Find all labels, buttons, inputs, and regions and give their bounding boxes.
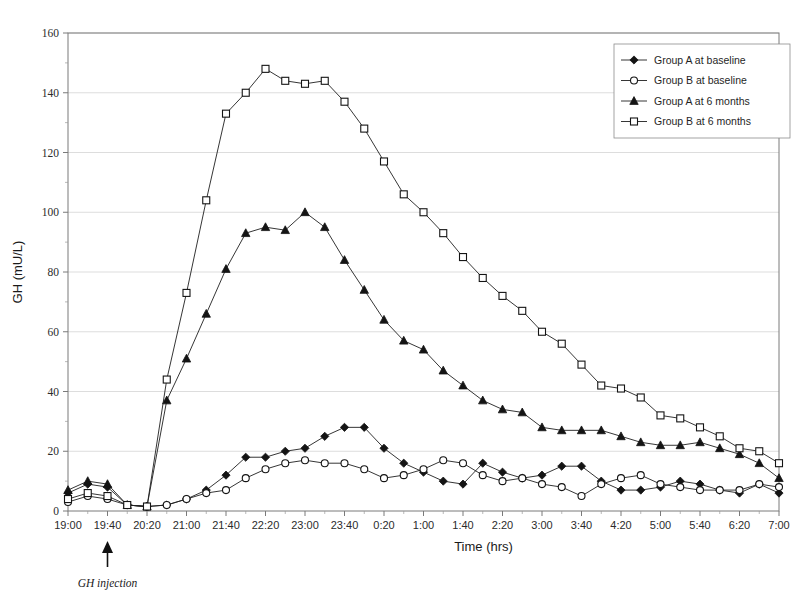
data-point xyxy=(223,487,230,494)
data-point xyxy=(282,77,289,84)
x-tick-label-7: 23:40 xyxy=(331,519,359,531)
x-tick-label-5: 22:20 xyxy=(252,519,280,531)
data-point xyxy=(499,292,506,299)
data-point xyxy=(222,265,230,273)
x-tick-label-8: 0:20 xyxy=(373,519,394,531)
data-point xyxy=(381,158,388,165)
x-tick-label-16: 5:40 xyxy=(689,519,710,531)
data-point xyxy=(736,445,743,452)
x-tick-label-4: 21:40 xyxy=(212,519,240,531)
x-tick-label-11: 2:20 xyxy=(492,519,513,531)
data-point xyxy=(755,459,763,467)
legend-marker-open-square xyxy=(631,118,638,125)
data-point xyxy=(65,496,72,503)
y-tick-label-60: 60 xyxy=(48,326,60,338)
data-point xyxy=(696,438,704,446)
data-point xyxy=(361,466,368,473)
data-point xyxy=(498,405,506,413)
data-point xyxy=(577,426,585,434)
data-point xyxy=(124,502,131,509)
data-point xyxy=(578,361,585,368)
data-point xyxy=(84,490,91,497)
gh-profile-chart: 02040608010012014016019:0019:4020:2021:0… xyxy=(0,0,812,604)
data-point xyxy=(657,481,664,488)
data-point xyxy=(202,309,210,317)
data-point xyxy=(697,487,704,494)
data-point xyxy=(261,223,269,231)
data-point xyxy=(558,340,565,347)
data-point xyxy=(84,477,92,485)
data-point xyxy=(163,376,170,383)
data-point xyxy=(617,486,625,494)
x-tick-label-6: 23:00 xyxy=(291,519,319,531)
data-point xyxy=(341,460,348,467)
data-point xyxy=(716,433,723,440)
series-2 xyxy=(65,457,783,510)
data-point xyxy=(618,475,625,482)
data-point xyxy=(144,503,151,510)
x-tick-label-14: 4:20 xyxy=(610,519,631,531)
data-point xyxy=(341,98,348,105)
data-point xyxy=(183,289,190,296)
data-point xyxy=(302,80,309,87)
data-point xyxy=(64,486,72,494)
data-point xyxy=(420,466,427,473)
data-point xyxy=(677,415,684,422)
data-point xyxy=(440,457,447,464)
gh-injection-annotation: GH injection xyxy=(78,541,138,590)
data-point xyxy=(400,191,407,198)
data-point xyxy=(637,394,644,401)
data-point xyxy=(460,254,467,261)
data-point xyxy=(519,475,526,482)
data-point xyxy=(459,381,467,389)
data-point xyxy=(321,77,328,84)
data-point xyxy=(360,286,368,294)
data-point xyxy=(301,208,309,216)
x-tick-label-13: 3:40 xyxy=(571,519,592,531)
data-point xyxy=(756,481,763,488)
data-point xyxy=(479,472,486,479)
data-point xyxy=(539,328,546,335)
data-point xyxy=(558,484,565,491)
y-tick-label-160: 160 xyxy=(42,27,60,39)
data-point xyxy=(577,462,585,470)
chart-canvas: 02040608010012014016019:0019:4020:2021:0… xyxy=(0,0,812,604)
data-point xyxy=(775,474,783,482)
legend-label: Group A at baseline xyxy=(654,54,746,66)
data-point xyxy=(439,477,447,485)
y-tick-label-20: 20 xyxy=(48,445,60,457)
data-point xyxy=(381,475,388,482)
data-point xyxy=(282,460,289,467)
data-point xyxy=(736,487,743,494)
data-point xyxy=(499,478,506,485)
data-point xyxy=(479,274,486,281)
data-point xyxy=(420,209,427,216)
data-point xyxy=(321,223,329,231)
y-tick-label-100: 100 xyxy=(42,206,60,218)
data-point xyxy=(183,496,190,503)
x-axis-title: Time (hrs) xyxy=(454,539,513,554)
data-point xyxy=(776,460,783,467)
legend-label: Group B at baseline xyxy=(654,74,747,86)
data-point xyxy=(440,230,447,237)
injection-label: GH injection xyxy=(78,577,138,590)
data-point xyxy=(677,484,684,491)
data-point xyxy=(380,315,388,323)
data-point xyxy=(281,447,289,455)
data-point xyxy=(597,426,605,434)
data-point xyxy=(697,424,704,431)
data-point xyxy=(776,484,783,491)
x-tick-label-12: 3:00 xyxy=(531,519,552,531)
data-point xyxy=(242,475,249,482)
data-point xyxy=(657,412,664,419)
y-tick-label-40: 40 xyxy=(48,386,60,398)
legend-marker-open-circle xyxy=(631,77,638,84)
data-point xyxy=(203,490,210,497)
data-point xyxy=(321,460,328,467)
injection-arrow-head xyxy=(102,541,113,553)
x-tick-label-9: 1:00 xyxy=(413,519,434,531)
data-point xyxy=(340,256,348,264)
data-point xyxy=(637,472,644,479)
data-point xyxy=(519,307,526,314)
data-point xyxy=(538,471,546,479)
